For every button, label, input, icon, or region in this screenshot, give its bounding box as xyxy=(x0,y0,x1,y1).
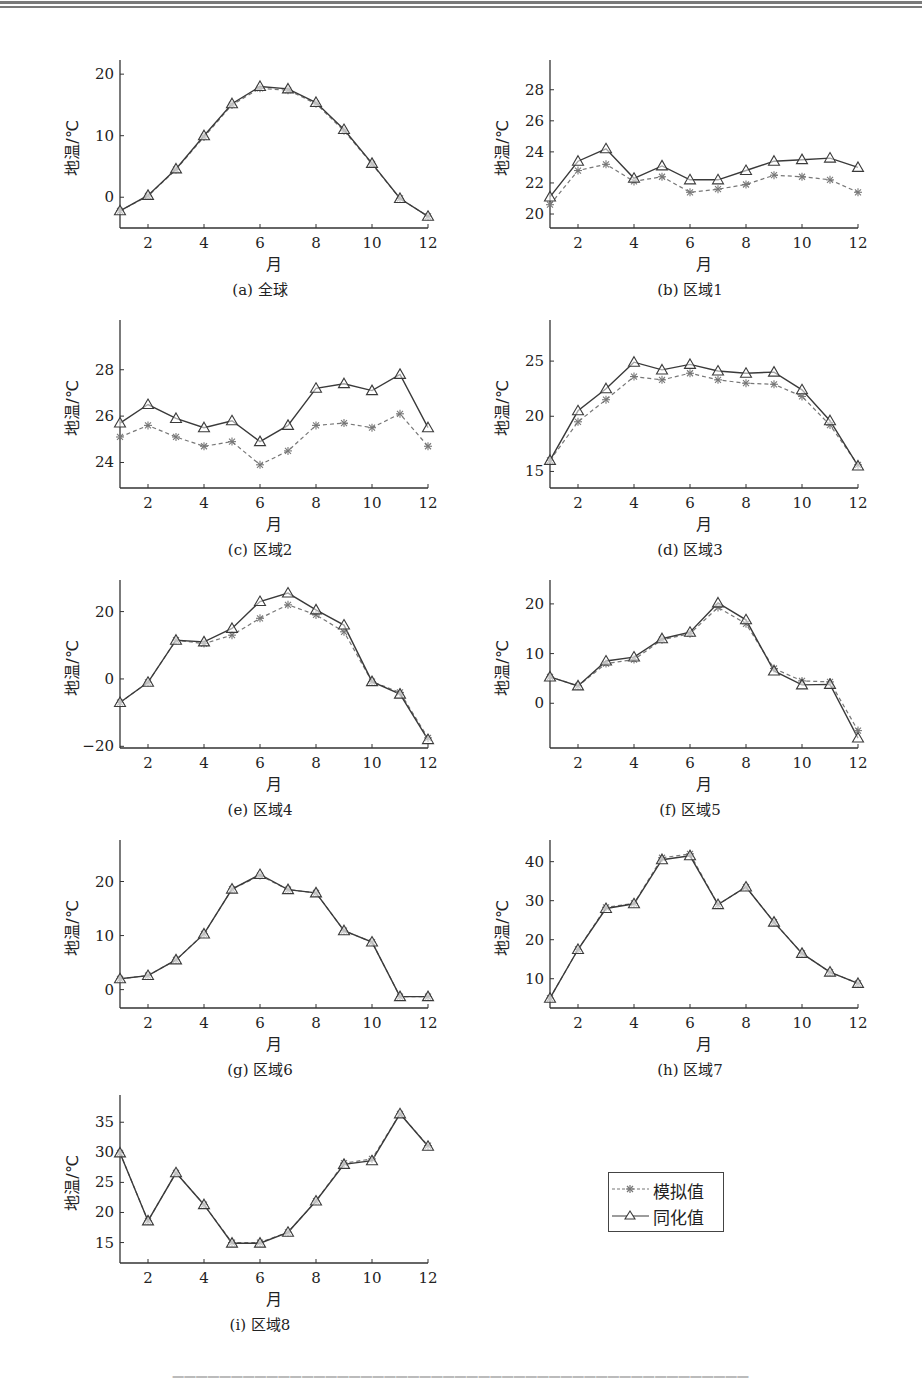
triangle-marker-icon xyxy=(283,588,294,598)
x-tick-label: 4 xyxy=(199,494,209,512)
chart-caption: (d) 区域3 xyxy=(480,538,900,559)
series-simulated-line xyxy=(120,88,428,216)
series-assimilated-line xyxy=(550,856,858,998)
triangle-marker-icon xyxy=(143,970,154,980)
y-axis-label: 地温/℃ xyxy=(63,640,82,695)
asterisk-marker-icon xyxy=(424,442,432,450)
y-tick-label: 20 xyxy=(95,603,114,621)
asterisk-marker-icon xyxy=(228,438,236,446)
x-tick-label: 6 xyxy=(685,494,695,512)
y-tick-label: 15 xyxy=(525,462,544,480)
y-axis-label: 地温/℃ xyxy=(493,640,512,695)
series-simulated-line xyxy=(550,373,858,465)
x-tick-label: 6 xyxy=(255,1269,265,1287)
x-tick-label: 4 xyxy=(199,234,209,252)
triangle-marker-icon xyxy=(143,677,154,687)
y-tick-label: 0 xyxy=(104,670,114,688)
triangle-marker-icon xyxy=(367,676,378,686)
x-tick-label: 10 xyxy=(362,494,381,512)
assimilated-line-triangle-icon xyxy=(609,1202,653,1228)
y-axis-label: 地温/℃ xyxy=(63,120,82,175)
triangle-marker-icon xyxy=(825,967,836,977)
asterisk-marker-icon xyxy=(546,201,554,209)
y-tick-label: 10 xyxy=(525,645,544,663)
chart-panel-f: 2468101201020月地温/℃(f) 区域5 xyxy=(480,570,900,830)
chart-panel-g: 2468101201020月地温/℃(g) 区域6 xyxy=(50,830,470,1090)
chart-svg: 24681012242628月地温/℃ xyxy=(50,310,470,570)
chart-caption: (b) 区域1 xyxy=(480,278,900,299)
asterisk-marker-icon xyxy=(742,379,750,387)
y-tick-label: 10 xyxy=(525,970,544,988)
asterisk-marker-icon xyxy=(144,421,152,429)
x-tick-label: 12 xyxy=(418,1014,437,1032)
triangle-marker-icon xyxy=(713,597,724,607)
chart-caption: (e) 区域4 xyxy=(50,798,470,819)
y-axis-label: 地温/℃ xyxy=(63,1155,82,1210)
asterisk-marker-icon xyxy=(172,433,180,441)
triangle-marker-icon xyxy=(171,413,182,423)
y-tick-label: 30 xyxy=(95,1143,114,1161)
legend-item-assimilated: 同化值 xyxy=(609,1202,723,1228)
asterisk-marker-icon xyxy=(116,433,124,441)
triangle-marker-icon xyxy=(573,405,584,415)
x-tick-label: 2 xyxy=(143,1269,153,1287)
triangle-marker-icon xyxy=(423,211,434,221)
triangle-marker-icon xyxy=(769,367,780,377)
x-tick-label: 12 xyxy=(848,754,867,772)
triangle-marker-icon xyxy=(255,81,266,91)
y-tick-label: 20 xyxy=(525,407,544,425)
x-tick-label: 12 xyxy=(418,1269,437,1287)
series-assimilated-line xyxy=(120,87,428,217)
x-tick-label: 6 xyxy=(255,234,265,252)
y-tick-label: 20 xyxy=(95,873,114,891)
triangle-marker-icon xyxy=(171,1167,182,1177)
y-tick-label: 20 xyxy=(525,595,544,613)
triangle-marker-icon xyxy=(339,620,350,630)
triangle-marker-icon xyxy=(143,399,154,409)
triangle-marker-icon xyxy=(825,153,836,163)
y-tick-label: 0 xyxy=(104,188,114,206)
x-tick-label: 8 xyxy=(311,494,321,512)
x-tick-label: 10 xyxy=(792,1014,811,1032)
x-tick-label: 2 xyxy=(573,234,583,252)
triangle-marker-icon xyxy=(395,991,406,1001)
x-tick-label: 8 xyxy=(741,754,751,772)
triangle-marker-icon xyxy=(367,1155,378,1165)
x-tick-label: 2 xyxy=(573,494,583,512)
triangle-marker-icon xyxy=(255,869,266,879)
y-tick-label: 20 xyxy=(95,65,114,83)
x-tick-label: 2 xyxy=(143,494,153,512)
asterisk-marker-icon xyxy=(854,188,862,196)
triangle-marker-icon xyxy=(853,733,864,743)
x-axis-label: 月 xyxy=(696,515,712,534)
series-simulated-line xyxy=(120,414,428,465)
y-tick-label: 22 xyxy=(525,174,544,192)
x-tick-label: 6 xyxy=(255,494,265,512)
triangle-marker-icon xyxy=(741,614,752,624)
y-tick-label: 26 xyxy=(525,112,544,130)
y-tick-label: 26 xyxy=(95,407,114,425)
triangle-marker-icon xyxy=(685,174,696,184)
asterisk-marker-icon xyxy=(340,419,348,427)
x-tick-label: 12 xyxy=(418,234,437,252)
triangle-marker-icon xyxy=(423,734,434,744)
asterisk-marker-icon xyxy=(312,421,320,429)
y-tick-label: 24 xyxy=(95,453,114,471)
x-tick-label: 4 xyxy=(199,1014,209,1032)
chart-svg: 2468101201020月地温/℃ xyxy=(50,830,470,1090)
y-axis-label: 地温/℃ xyxy=(493,380,512,435)
x-tick-label: 4 xyxy=(629,1014,639,1032)
x-tick-label: 8 xyxy=(741,234,751,252)
triangle-marker-icon xyxy=(545,993,556,1003)
triangle-marker-icon xyxy=(115,697,126,707)
chart-svg: 24681012152025月地温/℃ xyxy=(480,310,900,570)
x-tick-label: 10 xyxy=(792,494,811,512)
triangle-marker-icon xyxy=(741,882,752,892)
x-tick-label: 10 xyxy=(362,234,381,252)
y-tick-label: 30 xyxy=(525,892,544,910)
series-assimilated-line xyxy=(120,1114,428,1243)
triangle-marker-icon xyxy=(545,671,556,681)
x-tick-label: 8 xyxy=(311,1014,321,1032)
triangle-marker-icon xyxy=(713,899,724,909)
asterisk-marker-icon xyxy=(770,171,778,179)
